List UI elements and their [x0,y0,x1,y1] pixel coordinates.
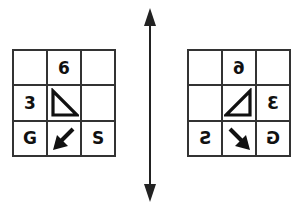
mirrored-grid: 6 3 S G [187,49,291,157]
cell-r1c0 [188,85,222,120]
cell-r0c0 [13,50,47,85]
cell-r2c0: S [188,121,222,156]
cell-r2c1 [47,121,81,156]
cell-r0c1: 6 [47,50,81,85]
digit-six-mirrored: 6 [233,58,245,78]
digit-three: 3 [24,93,36,113]
cell-r1c2 [81,85,115,120]
cell-r0c1: 6 [222,50,256,85]
arrow-down-left-icon [49,123,79,153]
arrow-down-right-icon [224,123,254,153]
triangle-mirrored-icon [224,88,254,118]
cell-r1c1 [222,85,256,120]
cell-r2c1 [222,121,256,156]
cell-r1c1 [47,85,81,120]
cell-r2c2: S [81,121,115,156]
letter-s: S [92,128,104,148]
cell-r0c2 [81,50,115,85]
original-grid: 6 3 G S [12,49,116,157]
mirror-line-double-arrow-icon [140,6,160,208]
digit-three-mirrored: 3 [267,93,279,113]
cell-r1c2: 3 [256,85,290,120]
cell-r0c2 [256,50,290,85]
cell-r2c2: G [256,121,290,156]
letter-s-mirrored: S [199,128,211,148]
cell-r1c0: 3 [13,85,47,120]
letter-g-mirrored: G [266,128,280,148]
triangle-icon [49,88,79,118]
cell-r2c0: G [13,121,47,156]
letter-g: G [23,128,37,148]
cell-r0c0 [188,50,222,85]
digit-six: 6 [58,58,70,78]
